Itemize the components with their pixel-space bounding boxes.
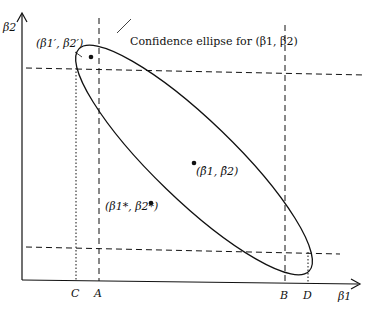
tick-d: D [303,290,312,301]
ellipse-label: Confidence ellipse for (β1, β2) [130,36,298,47]
ellipse-label-pointer [117,19,131,33]
confidence-ellipse [51,20,337,300]
label-beta-hat: (β̂1, β̂2) [196,166,238,177]
tick-b: B [280,290,288,301]
lower-dashed-line [26,247,340,254]
label-beta-prime: (β1′, β2′) [36,38,83,49]
x-axis-label: β1 [338,291,351,302]
y-axis-label: β2 [3,22,16,33]
tick-c: C [71,288,79,299]
tick-a: A [94,288,102,299]
y-axis [17,13,27,280]
label-beta-star: (β1*, β2*) [105,201,158,212]
point-beta-prime [89,55,94,60]
